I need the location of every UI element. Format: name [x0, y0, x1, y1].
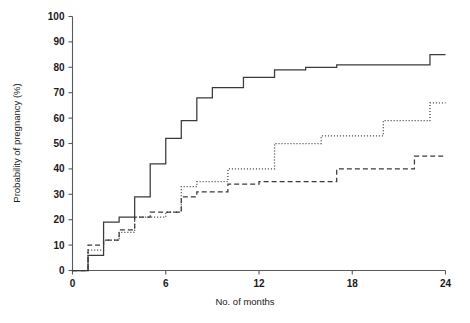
y-tick-label: 40 — [53, 163, 65, 174]
x-tick-label: 24 — [440, 278, 452, 289]
y-tick-label: 30 — [53, 189, 65, 200]
y-axis-tick-labels: 0102030405060708090100 — [48, 11, 65, 276]
y-tick-label: 90 — [53, 36, 65, 47]
y-tick-label: 80 — [53, 62, 65, 73]
y-axis-tick-marks — [69, 17, 73, 271]
y-tick-label: 100 — [48, 11, 65, 22]
x-tick-label: 18 — [347, 278, 359, 289]
y-axis-group: 0102030405060708090100 — [48, 11, 73, 276]
y-tick-label: 70 — [53, 87, 65, 98]
chart-svg: 0102030405060708090100 06121824 Probabil… — [0, 0, 470, 323]
y-tick-label: 10 — [53, 240, 65, 251]
y-axis-title: Probability of pregnancy (%) — [11, 83, 22, 202]
series-line-dashed — [73, 156, 446, 270]
series-line-dotted — [73, 103, 446, 271]
x-axis-tick-labels: 06121824 — [70, 278, 452, 289]
x-tick-label: 0 — [70, 278, 76, 289]
chart-figure: 0102030405060708090100 06121824 Probabil… — [0, 0, 470, 323]
x-tick-label: 12 — [253, 278, 265, 289]
series-line-solid — [73, 55, 446, 271]
x-axis-title: No. of months — [215, 296, 274, 307]
x-axis-group: 06121824 — [70, 271, 452, 289]
y-tick-label: 0 — [59, 265, 65, 276]
y-tick-label: 50 — [53, 138, 65, 149]
x-tick-label: 6 — [163, 278, 169, 289]
data-series-group — [73, 55, 446, 271]
y-tick-label: 20 — [53, 214, 65, 225]
x-axis-tick-marks — [73, 271, 446, 275]
y-tick-label: 60 — [53, 113, 65, 124]
